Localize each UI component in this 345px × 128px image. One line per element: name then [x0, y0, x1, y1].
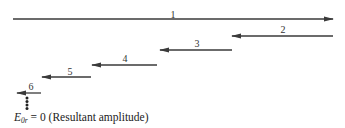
phasor-label-2: 2 — [281, 25, 286, 35]
equals-zero: = 0 — [31, 111, 46, 123]
caption-description: (Resultant amplitude) — [49, 111, 149, 123]
field-subscript: 0r — [21, 116, 28, 125]
continuation-dots-icon — [26, 97, 29, 111]
phasor-label-4: 4 — [123, 54, 128, 64]
phasor-label-3: 3 — [195, 39, 200, 49]
phasor-label-1: 1 — [171, 10, 176, 20]
phasor-label-5: 5 — [68, 67, 73, 77]
phasor-label-6: 6 — [29, 82, 34, 92]
field-symbol: E — [14, 111, 21, 123]
resultant-caption: E0r = 0 (Resultant amplitude) — [14, 111, 149, 125]
